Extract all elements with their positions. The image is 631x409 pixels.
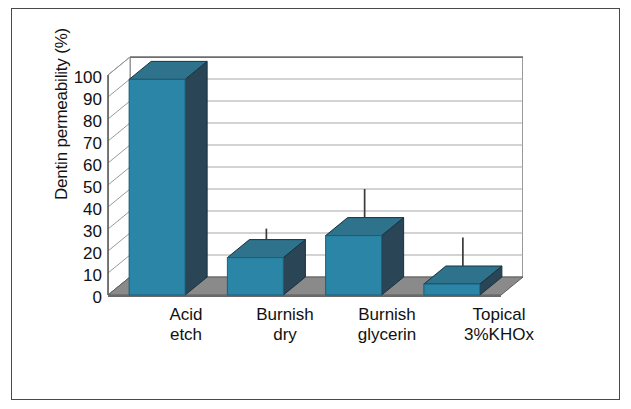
figure-border: Dentin permeability (%) xyxy=(11,8,620,400)
bar-acid-etch xyxy=(129,61,207,295)
x-label-line1: Topical xyxy=(473,305,526,324)
x-tick-label-topical-khox: Topical 3%KHOx xyxy=(436,305,562,344)
bar-front-face xyxy=(326,236,382,295)
x-label-line2: etch xyxy=(138,325,234,345)
x-label-line2: glycerin xyxy=(330,325,444,345)
bar-front-face xyxy=(424,284,480,295)
x-label-line1: Acid xyxy=(169,305,202,324)
x-label-line1: Burnish xyxy=(256,305,314,324)
bar-burnish-glycerin xyxy=(326,218,404,295)
x-tick-label-burnish-glycerin: Burnish glycerin xyxy=(330,305,444,344)
figure: Dentin permeability (%) xyxy=(0,0,631,409)
bar-side-face xyxy=(185,61,207,295)
bar-front-face xyxy=(227,258,283,295)
x-label-line1: Burnish xyxy=(358,305,416,324)
bar-front-face xyxy=(129,79,185,295)
x-label-line2: 3%KHOx xyxy=(436,325,562,345)
bar-topical-3-khox xyxy=(424,266,502,295)
x-label-line2: dry xyxy=(230,325,340,345)
bar-burnish-dry xyxy=(227,240,305,295)
plot-area: 100 90 80 70 60 50 40 30 20 10 0 Acid et… xyxy=(12,9,621,401)
x-tick-label-burnish-dry: Burnish dry xyxy=(230,305,340,344)
x-tick-label-acid-etch: Acid etch xyxy=(138,305,234,344)
